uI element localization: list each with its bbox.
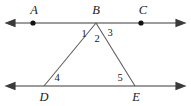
point-label-c: C [139, 3, 148, 17]
angle-label-4: 4 [54, 72, 60, 83]
line-de-left-arrowhead [6, 83, 15, 90]
line-abc-left-arrowhead [6, 20, 15, 27]
line-de-group [6, 83, 185, 90]
point-label-a: A [29, 3, 38, 17]
point-labels-group: A B C D E [29, 3, 148, 104]
angle-label-3: 3 [107, 27, 112, 38]
point-label-d: D [38, 90, 48, 104]
line-de-right-arrowhead [176, 83, 185, 90]
angle-label-1: 1 [81, 28, 86, 39]
segment-b-d [44, 23, 96, 86]
point-dot-c [138, 20, 143, 25]
geometry-figure: A B C D E 1 2 3 4 5 [0, 0, 191, 106]
point-label-b: B [92, 3, 100, 17]
point-dot-a [30, 20, 35, 25]
angle-label-5: 5 [117, 72, 122, 83]
angle-labels-group: 1 2 3 4 5 [54, 27, 122, 83]
segment-b-e [96, 23, 135, 86]
line-abc-right-arrowhead [176, 20, 185, 27]
point-label-e: E [131, 90, 140, 104]
geometry-canvas: A B C D E 1 2 3 4 5 [0, 0, 191, 106]
angle-label-2: 2 [94, 33, 99, 44]
